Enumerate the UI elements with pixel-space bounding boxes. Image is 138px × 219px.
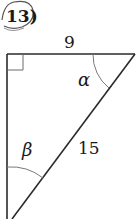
hypotenuse-label: 15 [78,138,100,158]
angle-alpha-label: α [78,69,90,90]
alpha-arc-icon [93,54,109,88]
right-angle-marker-icon [7,54,23,70]
problem-number: 13) [6,6,38,26]
angle-beta-label: β [21,139,32,160]
hypotenuse [12,54,135,219]
beta-arc-icon [7,167,43,178]
problem-number-badge: 13) [2,1,38,30]
side-top-label: 9 [64,32,75,52]
triangle-diagram: 13) 9 α β 15 [0,0,138,219]
